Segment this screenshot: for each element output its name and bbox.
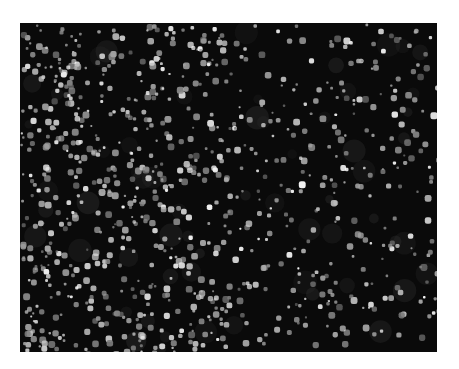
particle (196, 295, 201, 300)
particle (368, 302, 374, 308)
particle (207, 315, 210, 318)
particle (371, 283, 374, 286)
particle (54, 81, 56, 83)
particle (47, 264, 49, 266)
particle (240, 167, 244, 171)
particle (181, 29, 184, 32)
particle (158, 244, 164, 250)
particle (241, 190, 244, 193)
particle (165, 116, 172, 123)
particle (92, 318, 98, 324)
particle (427, 314, 431, 318)
particle (217, 40, 223, 46)
particle (296, 83, 298, 85)
particle (95, 134, 97, 136)
particle (188, 42, 194, 48)
particle (52, 330, 58, 336)
particle (99, 81, 103, 85)
particle (411, 69, 416, 74)
particle (390, 136, 394, 140)
haze (353, 160, 376, 183)
particle (309, 174, 311, 176)
particle (168, 26, 173, 31)
particle (393, 161, 396, 164)
particle (320, 276, 325, 281)
particle (361, 60, 364, 63)
particle (193, 80, 199, 86)
particle (220, 307, 224, 311)
particle (368, 194, 371, 197)
particle (112, 226, 114, 228)
particle (261, 123, 265, 127)
particle (118, 142, 120, 144)
particle (151, 84, 156, 89)
particle (286, 188, 291, 193)
particle (45, 67, 47, 69)
particle (381, 49, 386, 54)
particle (25, 348, 29, 352)
particle (343, 181, 345, 183)
particle (95, 60, 100, 65)
particle (230, 72, 233, 75)
particle (232, 122, 236, 126)
particle (133, 220, 136, 223)
particle (328, 300, 330, 302)
particle (400, 107, 406, 113)
particle (150, 63, 157, 70)
particle (113, 312, 117, 316)
particle (112, 110, 115, 113)
particle (361, 267, 366, 272)
particle (428, 166, 431, 169)
particle (191, 26, 195, 30)
particle (102, 184, 107, 189)
particle (83, 186, 88, 191)
particle (22, 223, 26, 227)
particle (104, 321, 109, 326)
particle (146, 302, 150, 306)
particle (65, 44, 68, 47)
particle (162, 293, 167, 298)
particle (67, 94, 70, 97)
particle (287, 330, 292, 335)
particle (106, 306, 112, 312)
particle (389, 34, 394, 39)
particle (224, 310, 228, 314)
particle (31, 336, 37, 342)
particle (177, 167, 183, 173)
particle (263, 174, 268, 179)
particle (25, 324, 31, 330)
particle (96, 153, 100, 157)
particle (339, 81, 344, 86)
particle (301, 170, 305, 174)
particle (179, 328, 184, 333)
particle (209, 319, 212, 322)
particle (68, 154, 73, 159)
particle (208, 296, 213, 301)
particle (205, 147, 208, 150)
particle (119, 53, 125, 59)
particle (403, 154, 405, 156)
particle (128, 116, 133, 121)
particle (268, 119, 272, 123)
micrograph-image (20, 23, 437, 352)
particle (330, 178, 333, 181)
particle (188, 331, 195, 338)
particle (203, 92, 208, 97)
particle (313, 342, 319, 348)
particle (128, 200, 134, 206)
particle (347, 243, 354, 250)
particle (32, 69, 38, 75)
particle (298, 281, 301, 284)
particle (113, 351, 119, 352)
particle (87, 305, 93, 311)
particle (301, 249, 306, 254)
particle (191, 304, 198, 311)
particle (85, 301, 88, 304)
particle (58, 82, 63, 87)
particle (86, 249, 88, 251)
particle (44, 187, 49, 192)
particle (239, 106, 241, 108)
particle (107, 86, 112, 91)
particle (283, 104, 286, 107)
particle (49, 242, 52, 245)
